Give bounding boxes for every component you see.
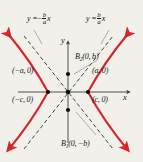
label-right-asymptote: y =bax <box>86 12 105 26</box>
hyperbola-graphic <box>0 0 143 162</box>
label-axis-y: y <box>61 36 65 45</box>
label-focus-left: (−c, 0) <box>12 96 33 104</box>
label-vertex-right: (a, 0) <box>92 67 108 75</box>
point-conjugate-bottom <box>66 108 70 112</box>
point-focus-left <box>46 90 50 94</box>
point-conjugate-top <box>66 72 70 76</box>
label-focus-right: (c, 0) <box>92 96 108 104</box>
label-axis-x: x <box>123 93 127 102</box>
point-focus-right <box>86 90 90 94</box>
label-conjugate-bottom: B1(0, −b) <box>61 140 90 148</box>
label-vertex-left: (−a, 0) <box>12 67 33 75</box>
point-origin <box>66 90 71 95</box>
hyperbola-figure: y =−bax y =bax y x (−a, 0) (a, 0) (−c, 0… <box>0 0 143 162</box>
label-conjugate-top: B2(0, b) <box>75 53 98 61</box>
label-left-asymptote: y =−bax <box>27 12 50 26</box>
leader-lines <box>34 30 109 135</box>
